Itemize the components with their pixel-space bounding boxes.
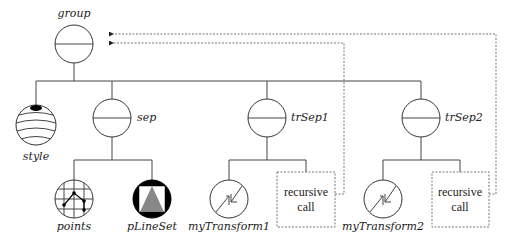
recursive-label-2b: call xyxy=(451,200,469,214)
node-style: style xyxy=(16,105,56,163)
scene-graph-diagram: group style sep trSep1 trSep2 xyxy=(0,0,515,234)
label-trSep1: trSep1 xyxy=(291,111,329,124)
node-myTransform1: myTransform1 xyxy=(188,180,270,233)
node-points: points xyxy=(54,178,94,233)
sphere-highlight-icon xyxy=(30,105,42,111)
label-style: style xyxy=(23,150,50,163)
node-pLineSet: pLineSet xyxy=(127,180,178,233)
recursive-label-1b: call xyxy=(297,200,315,214)
label-points: points xyxy=(57,220,92,233)
node-myTransform2: myTransform2 xyxy=(342,180,424,233)
node-recursive-call-1: recursive call xyxy=(277,172,335,227)
node-recursive-call-2: recursive call xyxy=(432,172,489,227)
node-sep: sep xyxy=(93,99,156,137)
recursive-label-2a: recursive xyxy=(438,185,482,199)
grid-icon xyxy=(54,178,94,220)
label-myTransform1: myTransform1 xyxy=(188,220,270,233)
label-sep: sep xyxy=(137,111,156,124)
label-group: group xyxy=(57,7,90,20)
label-trSep2: trSep2 xyxy=(445,111,483,124)
node-trSep1: trSep1 xyxy=(248,99,329,137)
label-pLineSet: pLineSet xyxy=(127,220,178,233)
recursive-label-1a: recursive xyxy=(284,185,328,199)
node-group: group xyxy=(55,7,93,63)
label-myTransform2: myTransform2 xyxy=(342,220,424,233)
node-trSep2: trSep2 xyxy=(402,99,483,137)
